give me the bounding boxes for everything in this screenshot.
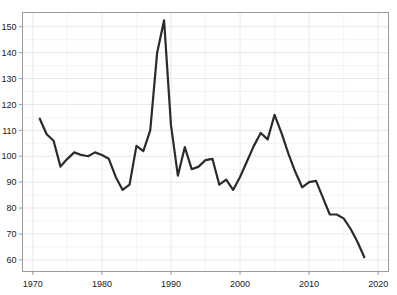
x-tick-label: 2000	[230, 279, 250, 289]
y-tick-label: 60	[6, 255, 16, 265]
chart-container: 197019801990200020102020 607080901001101…	[0, 0, 397, 295]
line-chart: 197019801990200020102020 607080901001101…	[0, 0, 397, 295]
x-tick-label: 1970	[23, 279, 43, 289]
y-tick-label: 100	[1, 151, 16, 161]
y-tick-label: 70	[6, 229, 16, 239]
y-tick-label: 120	[1, 100, 16, 110]
y-tick-label: 150	[1, 22, 16, 32]
y-tick-label: 130	[1, 74, 16, 84]
y-tick-label: 140	[1, 48, 16, 58]
y-tick-label: 80	[6, 203, 16, 213]
x-tick-label: 1980	[92, 279, 112, 289]
x-tick-label: 2020	[368, 279, 388, 289]
x-tick-label: 1990	[161, 279, 181, 289]
y-tick-label: 110	[2, 126, 16, 136]
chart-background	[0, 0, 397, 295]
y-tick-label: 90	[6, 177, 16, 187]
x-tick-label: 2010	[299, 279, 319, 289]
